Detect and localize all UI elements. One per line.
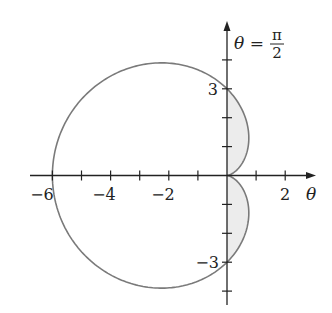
y-axis-arrow-icon xyxy=(224,21,231,31)
y-axis-title-denominator: 2 xyxy=(272,44,282,62)
x-tick-label: −4 xyxy=(92,185,116,204)
x-axis-title: θ xyxy=(306,184,316,204)
y-tick-label: 3 xyxy=(208,80,218,99)
y-tick-label: −3 xyxy=(195,253,219,272)
y-axis-title-pi: π xyxy=(272,26,282,44)
x-tick-label: −6 xyxy=(30,185,54,204)
x-axis-arrow-icon xyxy=(306,172,316,179)
x-tick-label: −2 xyxy=(151,185,175,204)
x-tick-label: 2 xyxy=(280,185,290,204)
y-axis-title: θ = xyxy=(234,33,264,53)
polar-plot: −6 −4 −2 2 θ 3 −3 θ = π 2 xyxy=(0,0,332,313)
